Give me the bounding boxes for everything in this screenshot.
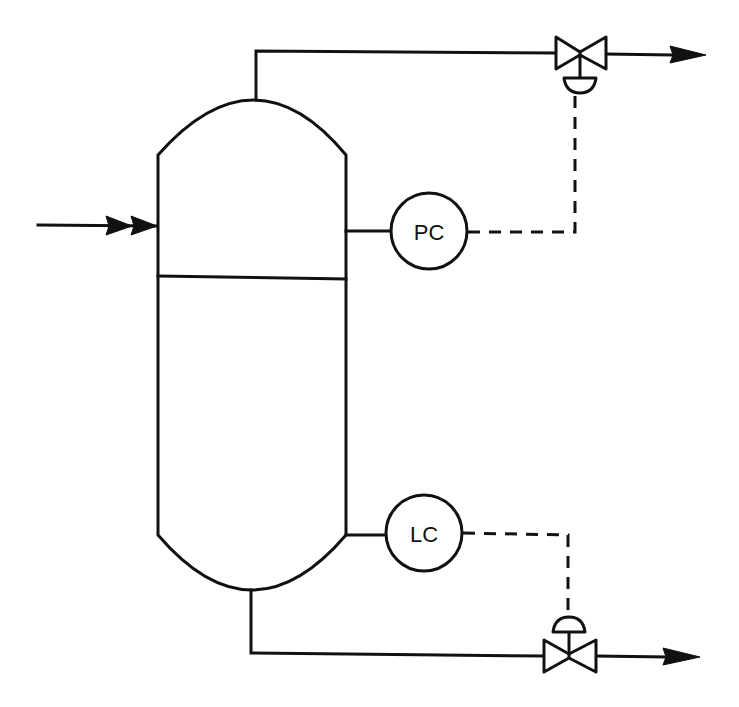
process-diagram: PC LC [0, 0, 739, 707]
lc-label: LC [410, 522, 438, 547]
diaphragm-actuator-icon [553, 617, 585, 632]
liquid-outlet-arrow-icon [663, 648, 700, 665]
liquid-control-valve [544, 617, 596, 672]
liquid-outlet-line [251, 590, 544, 656]
feed-arrow-icon-1 [106, 216, 132, 235]
pressure-controller: PC [346, 94, 575, 269]
feed-arrow-icon-2 [131, 216, 157, 235]
vapor-outlet-arrow-icon [670, 46, 706, 63]
pc-signal-line [468, 94, 575, 232]
pc-label: PC [414, 220, 445, 245]
diaphragm-actuator-icon [564, 78, 596, 93]
vapor-outlet-stream [256, 46, 706, 100]
vapor-downstream-line [606, 54, 672, 55]
liquid-outlet-stream [251, 590, 700, 665]
vapor-control-valve [556, 37, 606, 93]
level-controller: LC [346, 495, 568, 617]
feed-inlet-stream [38, 216, 157, 235]
lc-signal-line [463, 533, 568, 617]
liquid-downstream-line [596, 656, 666, 657]
vessel-shell [158, 100, 346, 590]
vapor-outlet-line [256, 51, 556, 100]
separator-vessel [158, 100, 346, 590]
